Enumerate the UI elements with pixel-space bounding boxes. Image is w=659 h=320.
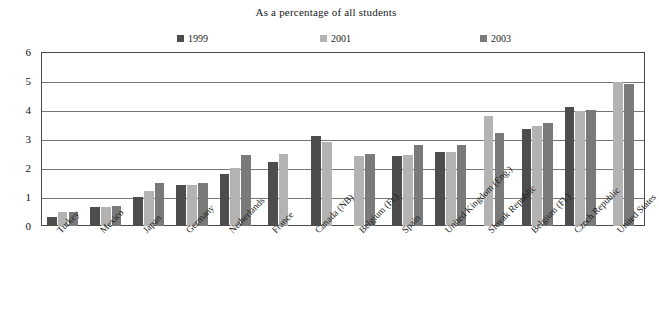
bar[interactable]: [220, 174, 230, 226]
y-axis-tick-label: 1: [26, 191, 32, 203]
bar[interactable]: [532, 126, 542, 226]
legend-swatch-icon: [480, 35, 487, 42]
legend-swatch-icon: [177, 35, 184, 42]
bar-group: [613, 52, 633, 226]
bar-group: [220, 52, 251, 226]
legend-item-2003[interactable]: 2003: [480, 33, 511, 44]
bar[interactable]: [133, 197, 143, 226]
bar[interactable]: [522, 129, 532, 226]
y-axis-tick-label: 4: [26, 104, 32, 116]
y-axis-labels: 0123456: [0, 52, 36, 226]
bar-group: [133, 52, 164, 226]
y-axis-tick-label: 2: [26, 162, 32, 174]
bar[interactable]: [575, 111, 585, 226]
y-axis-tick-label: 6: [26, 46, 32, 58]
chart-legend: 199920012003: [0, 33, 652, 47]
bar-group: [47, 52, 78, 226]
chart-title: As a percentage of all students: [0, 6, 652, 18]
legend-label: 1999: [188, 33, 208, 44]
bar-group: [311, 52, 331, 226]
bar[interactable]: [268, 162, 278, 226]
y-axis-tick-label: 3: [26, 133, 32, 145]
y-axis-tick-label: 0: [26, 220, 32, 232]
legend-swatch-icon: [320, 35, 327, 42]
bar[interactable]: [624, 84, 634, 226]
x-axis-labels: TurkeyMexicoJapanGermanyNetherlandsFranc…: [41, 226, 645, 320]
bar-group: [176, 52, 207, 226]
bar-group: [354, 52, 374, 226]
bar[interactable]: [176, 185, 186, 226]
legend-label: 2003: [491, 33, 511, 44]
bar[interactable]: [484, 116, 494, 226]
bar[interactable]: [47, 217, 57, 226]
bar[interactable]: [354, 156, 364, 226]
bar-group: [268, 52, 288, 226]
bar[interactable]: [565, 107, 575, 226]
bar-group: [90, 52, 121, 226]
legend-item-2001[interactable]: 2001: [320, 33, 351, 44]
bar[interactable]: [613, 82, 623, 226]
bar[interactable]: [435, 152, 445, 226]
bar-group: [435, 52, 466, 226]
bar[interactable]: [311, 136, 321, 226]
legend-item-1999[interactable]: 1999: [177, 33, 208, 44]
y-axis-tick-label: 5: [26, 75, 32, 87]
bar-group: [484, 52, 504, 226]
legend-label: 2001: [331, 33, 351, 44]
bar[interactable]: [90, 207, 100, 226]
